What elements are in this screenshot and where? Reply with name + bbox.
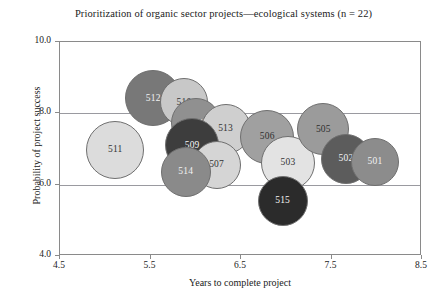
bubble-chart: Prioritization of organic sector project…	[0, 0, 447, 302]
x-tick-label-6.5: 6.5	[220, 260, 260, 270]
y-tick-label-4.0: 4.0	[17, 249, 51, 259]
x-tick-label-8.5: 8.5	[401, 260, 441, 270]
bubble-label-505: 505	[316, 125, 331, 135]
bubble-label-511: 511	[108, 145, 123, 155]
x-tick-label-5.5: 5.5	[130, 260, 170, 270]
bubble-label-513: 513	[218, 124, 233, 134]
bubble-514[interactable]: 514	[161, 147, 211, 197]
bubble-501[interactable]: 501	[351, 138, 399, 186]
x-tick-6.5	[240, 255, 241, 259]
bubble-label-501: 501	[368, 157, 383, 167]
bubble-515[interactable]: 515	[258, 176, 308, 226]
y-tick-label-10.0: 10.0	[17, 35, 51, 45]
x-tick-5.5	[150, 255, 151, 259]
bubble-label-515: 515	[275, 196, 290, 206]
x-tick-8.5	[421, 255, 422, 259]
y-tick-4.0	[55, 255, 59, 256]
y-tick-10.0	[55, 41, 59, 42]
x-tick-label-4.5: 4.5	[39, 260, 79, 270]
y-tick-8.0	[55, 112, 59, 113]
x-tick-7.5	[331, 255, 332, 259]
bubble-label-514: 514	[178, 167, 193, 177]
bubble-511[interactable]: 511	[86, 121, 144, 179]
bubble-label-507: 507	[209, 160, 224, 170]
x-tick-label-7.5: 7.5	[311, 260, 351, 270]
plot-area: 5115125105045135095075145065035155055025…	[59, 41, 421, 255]
x-tick-4.5	[59, 255, 60, 259]
chart-title: Prioritization of organic sector project…	[0, 8, 447, 19]
gridline-y-6.0	[60, 185, 420, 186]
y-tick-6.0	[55, 184, 59, 185]
x-axis-label: Years to complete project	[59, 277, 421, 288]
bubble-label-512: 512	[146, 94, 161, 104]
y-axis-label: Probability of project success	[31, 46, 42, 246]
bubble-label-503: 503	[281, 158, 296, 168]
